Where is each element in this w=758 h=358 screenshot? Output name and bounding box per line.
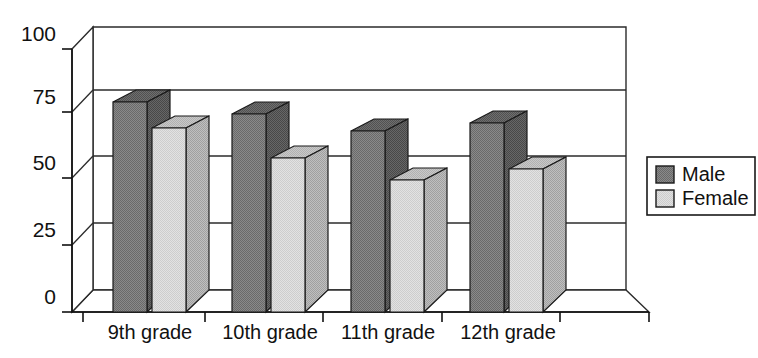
bar-side-face [543,157,566,312]
x-label-12th-grade: 12th grade [460,321,556,343]
legend-label-female: Female [682,187,749,209]
chart-canvas: 100 75 50 25 0 [0,0,758,358]
bar-11th-female[interactable] [390,168,447,312]
bar-front-face [470,123,504,312]
bar-side-face [186,116,209,312]
y-axis [62,49,72,312]
bar-front-face [390,180,424,312]
bar-group-9th-grade [113,90,209,312]
legend-item-male[interactable]: Male [656,163,725,185]
legend-swatch-male-icon [656,166,674,183]
legend: Male Female [647,157,755,215]
bar-9th-female[interactable] [152,116,209,312]
bar-front-face [232,114,266,312]
x-label-10th-grade: 10th grade [222,321,318,343]
bar-front-face [152,128,186,312]
bar-front-face [271,158,305,312]
y-tick-label-50: 50 [33,151,56,174]
bar-12th-female[interactable] [509,157,566,312]
legend-label-male: Male [682,163,725,185]
y-tick-label-100: 100 [21,22,56,45]
bar-chart: 100 75 50 25 0 [0,0,758,358]
bar-front-face [113,102,147,312]
bar-front-face [509,169,543,312]
y-tick-label-75: 75 [33,85,56,108]
left-wall [72,27,93,312]
legend-swatch-female-icon [656,190,674,207]
y-tick-label-25: 25 [33,218,56,241]
x-label-9th-grade: 9th grade [108,321,193,343]
y-axis-tick-labels: 100 75 50 25 0 [21,22,56,308]
y-tick-label-0: 0 [44,285,56,308]
legend-item-female[interactable]: Female [656,187,749,209]
bar-front-face [351,131,385,312]
x-label-11th-grade: 11th grade [341,321,435,343]
x-axis-category-labels: 9th grade 10th grade 11th grade 12th gra… [108,321,556,343]
bar-10th-female[interactable] [271,146,328,312]
bar-side-face [305,146,328,312]
bar-side-face [424,168,447,312]
